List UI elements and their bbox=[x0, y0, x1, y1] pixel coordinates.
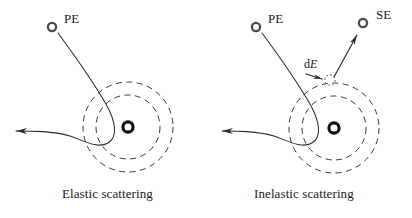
caption-inelastic: Inelastic scattering bbox=[254, 186, 354, 202]
pe-electron-icon bbox=[252, 23, 260, 31]
energy-loss-symbol: E bbox=[310, 57, 317, 71]
pe-electron-icon bbox=[48, 23, 56, 31]
energy-loss-label: dE bbox=[304, 57, 317, 72]
se-particle bbox=[359, 19, 367, 27]
se-label: SE bbox=[376, 7, 391, 23]
pe-particle-elastic bbox=[48, 23, 56, 31]
pe-particle-inelastic bbox=[252, 23, 260, 31]
pe-label-inelastic: PE bbox=[268, 11, 283, 27]
pe-label-elastic: PE bbox=[64, 11, 79, 27]
se-electron-icon bbox=[359, 19, 367, 27]
caption-elastic: Elastic scattering bbox=[62, 186, 153, 202]
